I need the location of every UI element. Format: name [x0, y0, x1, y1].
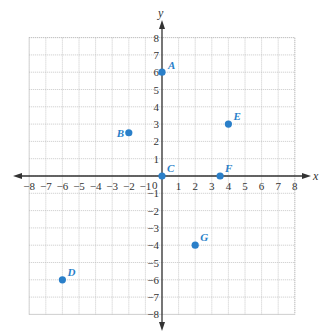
point-label: E	[232, 110, 240, 122]
y-tick-label: 2	[154, 135, 160, 147]
point-marker-icon	[158, 69, 165, 76]
y-tick-label: −3	[147, 222, 159, 234]
point-marker-icon	[59, 276, 66, 283]
y-tick-label: 5	[154, 84, 160, 96]
point-label: C	[167, 162, 175, 174]
x-tick-label: −6	[57, 180, 69, 192]
y-tick-label: 4	[154, 101, 160, 113]
point-label: A	[167, 59, 175, 71]
x-tick-label: −3	[106, 180, 118, 192]
x-tick-label: 8	[292, 180, 298, 192]
y-tick-label: −5	[147, 257, 159, 269]
y-axis-up-arrow-icon	[159, 20, 165, 29]
x-tick-label: 3	[209, 180, 215, 192]
point-marker-icon	[125, 129, 132, 136]
y-tick-label: 1	[154, 153, 160, 165]
point-marker-icon	[225, 121, 232, 128]
x-tick-label: −5	[73, 180, 85, 192]
y-axis-down-arrow-icon	[159, 322, 165, 331]
y-tick-label: −7	[147, 291, 159, 303]
x-tick-label: 5	[242, 180, 248, 192]
point-label: B	[116, 127, 124, 139]
coordinate-plane: x y 0 −8−7−6−5−4−3−2−11234567887654321−1…	[0, 0, 325, 331]
y-tick-label: 7	[154, 49, 160, 61]
point-label: D	[66, 266, 75, 278]
y-tick-label: −4	[147, 239, 159, 251]
point-marker-icon	[217, 172, 224, 179]
point-label: F	[224, 162, 233, 174]
y-tick-label: −2	[147, 205, 159, 217]
point-label: G	[200, 231, 208, 243]
x-tick-label: 6	[259, 180, 265, 192]
y-tick-label: 3	[154, 118, 160, 130]
y-tick-label: 8	[154, 32, 160, 44]
x-axis-left-arrow-icon	[13, 173, 22, 179]
y-tick-label: −8	[147, 308, 159, 320]
x-tick-label: 1	[176, 180, 182, 192]
y-axis-label: y	[157, 6, 164, 20]
x-tick-label: −7	[40, 180, 52, 192]
x-tick-label: −2	[123, 180, 135, 192]
x-tick-label: 4	[226, 180, 232, 192]
point-marker-icon	[192, 242, 199, 249]
y-tick-label: −1	[147, 187, 159, 199]
x-tick-label: −4	[90, 180, 102, 192]
y-tick-label: −6	[147, 274, 159, 286]
x-tick-label: 7	[275, 180, 281, 192]
x-axis-label: x	[312, 169, 319, 183]
point-marker-icon	[158, 172, 165, 179]
x-tick-label: −8	[23, 180, 35, 192]
x-axis-right-arrow-icon	[302, 173, 311, 179]
x-tick-label: 2	[192, 180, 198, 192]
